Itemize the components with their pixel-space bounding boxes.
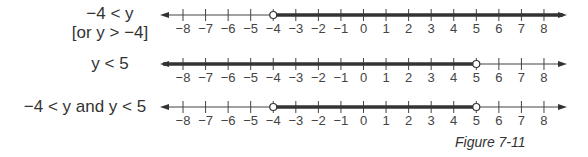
tick-label: −6: [221, 21, 236, 36]
tick-label: −4: [266, 70, 281, 85]
tick-label: −3: [288, 113, 303, 128]
tick-label: −1: [334, 113, 349, 128]
tick-label: 8: [540, 113, 547, 128]
tick-label: 3: [428, 113, 435, 128]
tick-label: 8: [540, 70, 547, 85]
tick-label: −1: [334, 70, 349, 85]
tick-label: −2: [311, 21, 326, 36]
tick-label: 2: [405, 113, 412, 128]
right-arrow-icon: [558, 61, 567, 67]
tick-label: 8: [540, 21, 547, 36]
tick-label: 0: [360, 70, 367, 85]
tick-label: 3: [428, 21, 435, 36]
tick-label: 4: [450, 113, 457, 128]
tick-label: −8: [176, 113, 191, 128]
tick-label: −8: [176, 70, 191, 85]
tick-label: 4: [450, 70, 457, 85]
tick-label: −1: [334, 21, 349, 36]
tick-label: 7: [518, 113, 525, 128]
right-arrow-icon: [558, 104, 567, 110]
tick-label: −3: [288, 21, 303, 36]
tick-label: 5: [473, 70, 480, 85]
tick-label: 2: [405, 21, 412, 36]
left-arrow-icon: [160, 12, 169, 18]
tick-label: 7: [518, 70, 525, 85]
tick-label: 0: [360, 21, 367, 36]
tick-label: −4: [266, 113, 281, 128]
tick-label: −7: [198, 21, 213, 36]
open-circle-icon: [270, 12, 277, 19]
tick-label: 6: [495, 70, 502, 85]
figure-caption: Figure 7-11: [455, 134, 575, 150]
tick-label: −4: [266, 21, 281, 36]
tick-label: 5: [473, 21, 480, 36]
tick-label: 5: [473, 113, 480, 128]
tick-label: −6: [221, 70, 236, 85]
tick-label: 3: [428, 70, 435, 85]
open-circle-icon: [473, 61, 480, 68]
tick-label: −5: [243, 21, 258, 36]
tick-label: −5: [243, 70, 258, 85]
tick-label: 1: [382, 21, 389, 36]
tick-label: 1: [382, 113, 389, 128]
tick-label: −6: [221, 113, 236, 128]
open-circle-icon: [473, 104, 480, 111]
tick-label: −8: [176, 21, 191, 36]
tick-label: 6: [495, 21, 502, 36]
tick-label: 7: [518, 21, 525, 36]
tick-label: −2: [311, 113, 326, 128]
tick-label: −5: [243, 113, 258, 128]
tick-label: 2: [405, 70, 412, 85]
left-arrow-icon: [160, 104, 169, 110]
tick-label: −7: [198, 113, 213, 128]
tick-label: −7: [198, 70, 213, 85]
tick-label: −3: [288, 70, 303, 85]
tick-label: 0: [360, 113, 367, 128]
open-circle-icon: [270, 104, 277, 111]
tick-label: 1: [382, 70, 389, 85]
tick-label: −2: [311, 70, 326, 85]
tick-label: 6: [495, 113, 502, 128]
tick-label: 4: [450, 21, 457, 36]
